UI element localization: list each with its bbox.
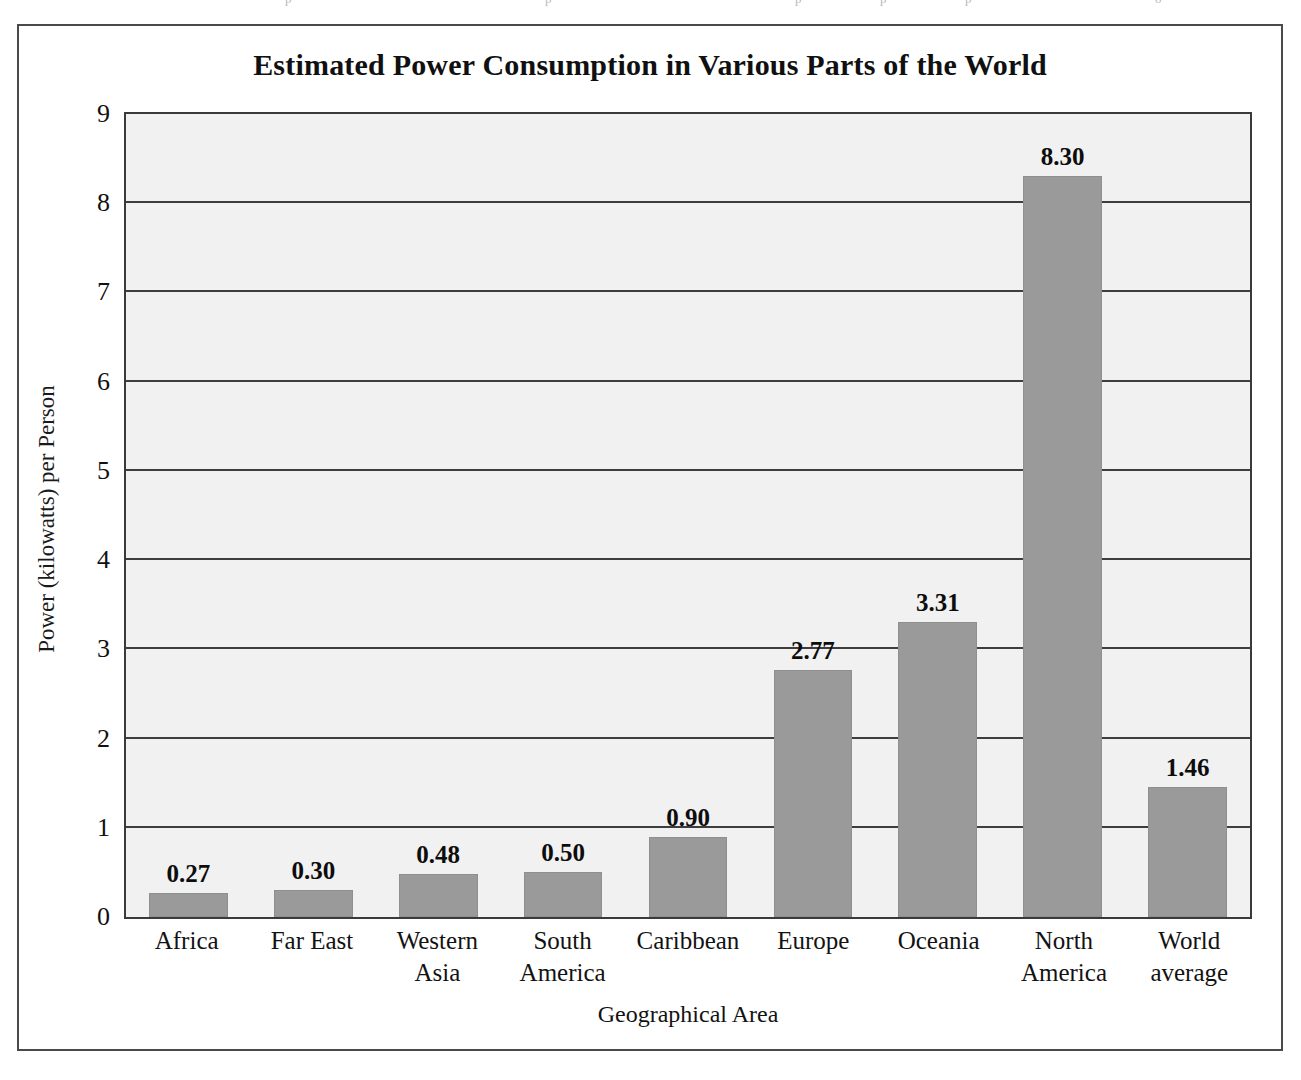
bar-slot: 0.48 <box>376 114 501 917</box>
bar-value-label: 0.30 <box>291 857 335 885</box>
bar-value-label: 3.31 <box>916 589 960 617</box>
bar-slot: 0.27 <box>126 114 251 917</box>
bar-value-label: 2.77 <box>791 637 835 665</box>
x-tick-label: Far East <box>249 925 374 989</box>
scan-artifact: o <box>1155 0 1162 7</box>
bar-value-label: 0.50 <box>541 839 585 867</box>
scan-artifact: p <box>965 0 972 7</box>
bar[interactable]: 2.77 <box>774 670 853 917</box>
bar-slot: 0.90 <box>626 114 751 917</box>
y-axis-title: Power (kilowatts) per Person <box>34 239 60 799</box>
x-tick-label: Caribbean <box>625 925 750 989</box>
x-tick-label: Europe <box>751 925 876 989</box>
scan-artifact: p <box>880 0 887 7</box>
bar[interactable]: 0.90 <box>649 837 728 917</box>
scan-artifacts: pppppo <box>0 0 1301 22</box>
y-tick-label: 1 <box>97 813 110 843</box>
x-tick-label: WesternAsia <box>375 925 500 989</box>
y-tick-label: 4 <box>97 545 110 575</box>
bar-value-label: 0.90 <box>666 804 710 832</box>
scan-artifact: p <box>795 0 802 7</box>
bar-value-label: 8.30 <box>1041 143 1085 171</box>
bar-slot: 3.31 <box>875 114 1000 917</box>
y-tick-label: 3 <box>97 634 110 664</box>
bar-value-label: 0.27 <box>167 860 211 888</box>
bar-slot: 0.50 <box>501 114 626 917</box>
bar-slot: 1.46 <box>1125 114 1250 917</box>
y-tick-label: 5 <box>97 456 110 486</box>
chart-title: Estimated Power Consumption in Various P… <box>19 48 1281 82</box>
y-tick-label: 2 <box>97 724 110 754</box>
x-tick-labels: AfricaFar EastWesternAsiaSouthAmericaCar… <box>124 925 1252 989</box>
scan-artifact: p <box>285 0 292 7</box>
bar[interactable]: 0.50 <box>524 872 603 917</box>
x-tick-label: Africa <box>124 925 249 989</box>
x-tick-label: NorthAmerica <box>1001 925 1126 989</box>
bar-value-label: 0.48 <box>416 841 460 869</box>
plot-area: 0123456789 0.270.300.480.500.902.773.318… <box>124 112 1252 919</box>
bars: 0.270.300.480.500.902.773.318.301.46 <box>126 114 1250 917</box>
bar[interactable]: 0.30 <box>274 890 353 917</box>
bar-slot: 8.30 <box>1000 114 1125 917</box>
bar-value-label: 1.46 <box>1166 754 1210 782</box>
bar-slot: 0.30 <box>251 114 376 917</box>
bar[interactable]: 0.27 <box>149 893 228 917</box>
x-axis-title: Geographical Area <box>124 1001 1252 1028</box>
y-tick-label: 6 <box>97 367 110 397</box>
bar[interactable]: 8.30 <box>1023 176 1102 917</box>
y-tick-label: 0 <box>97 902 110 932</box>
y-tick-label: 8 <box>97 188 110 218</box>
scan-artifact: p <box>545 0 552 7</box>
y-tick-label: 9 <box>97 99 110 129</box>
bar[interactable]: 0.48 <box>399 874 478 917</box>
bar[interactable]: 1.46 <box>1148 787 1227 917</box>
figure-frame: Estimated Power Consumption in Various P… <box>17 24 1283 1051</box>
x-tick-label: Worldaverage <box>1127 925 1252 989</box>
x-tick-label: SouthAmerica <box>500 925 625 989</box>
y-tick-label: 7 <box>97 277 110 307</box>
bar[interactable]: 3.31 <box>898 622 977 917</box>
x-tick-label: Oceania <box>876 925 1001 989</box>
bar-slot: 2.77 <box>750 114 875 917</box>
